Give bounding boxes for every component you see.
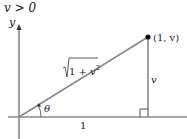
hypotenuse-label: 1 + v2 — [63, 58, 100, 77]
triangle-diagram: v > 0 y (1, v) 1 + v2 v 1 θ — [0, 0, 187, 139]
angle-label: θ — [44, 103, 50, 114]
point-marker — [145, 34, 150, 39]
y-axis-label: y — [8, 16, 16, 29]
base-label: 1 — [80, 120, 86, 131]
right-angle-marker — [140, 109, 148, 117]
title-condition: v > 0 — [4, 1, 36, 15]
point-label: (1, v) — [153, 32, 179, 43]
vertical-label: v — [151, 74, 157, 85]
svg-text:1 + v2: 1 + v2 — [69, 64, 100, 77]
y-axis-arrow-icon — [17, 24, 22, 30]
